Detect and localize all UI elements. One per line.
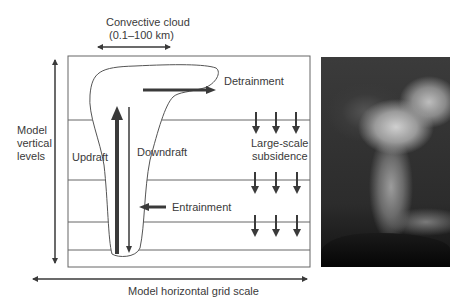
subsidence-arrows-top — [252, 112, 300, 134]
convective-cloud-label: Convective cloud — [106, 16, 190, 29]
large-scale-label: Large-scale — [251, 137, 308, 150]
updraft-label: Updraft — [72, 151, 108, 164]
model-vertical-label-1: Model — [17, 124, 47, 137]
detrainment-label: Detrainment — [224, 75, 284, 88]
subsidence-arrows-bottom — [251, 215, 301, 237]
horizontal-scale-label: Model horizontal grid scale — [128, 285, 259, 298]
subsidence-label: subsidence — [252, 150, 308, 163]
subsidence-arrows-middle — [251, 172, 301, 194]
model-vertical-label-2: vertical — [17, 137, 52, 150]
ground-silhouette — [321, 233, 450, 267]
cumulonimbus-cloud-photo — [321, 57, 450, 267]
convective-cloud-scale-label: (0.1–100 km) — [109, 29, 174, 42]
cloud-outline — [90, 65, 219, 257]
downdraft-label: Downdraft — [137, 146, 187, 159]
model-vertical-label-3: levels — [17, 150, 45, 163]
entrainment-label: Entrainment — [172, 201, 231, 214]
